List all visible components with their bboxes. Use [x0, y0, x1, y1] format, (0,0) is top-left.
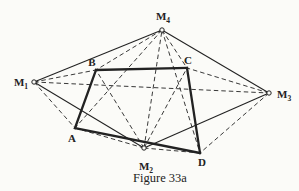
edge-dashed-M3-D: [200, 93, 269, 153]
point-marker-M3: [267, 91, 271, 95]
edge-bold-A-B: [75, 70, 96, 128]
point-label-D: D: [198, 156, 206, 168]
figure: M1M2M3M4ABCD Figure 33a: [0, 0, 299, 191]
point-label-A: A: [68, 132, 76, 144]
point-label-B: B: [88, 56, 96, 68]
point-marker-M1: [32, 80, 36, 84]
edge-dashed-M1-A: [34, 82, 75, 128]
point-label-C: C: [184, 54, 192, 66]
edge-solid-M1-M4: [34, 30, 162, 82]
edge-dashed-M4-A: [75, 30, 162, 128]
point-label-M1: M1: [14, 76, 28, 91]
edge-solid-M4-M3: [162, 30, 269, 93]
edge-dashed-M1-B: [34, 70, 96, 82]
point-marker-M4: [160, 28, 164, 32]
point-marker-M2: [142, 146, 146, 150]
point-label-M4: M4: [156, 10, 170, 25]
edge-bold-B-C: [96, 68, 187, 70]
figure-caption: Figure 33a: [133, 171, 187, 186]
figure-canvas: M1M2M3M4ABCD: [0, 0, 299, 191]
edge-dashed-M1-M3: [34, 82, 269, 93]
edge-bold-C-D: [187, 68, 200, 153]
edge-solid-M3-M2: [144, 93, 269, 148]
point-label-M3: M3: [277, 88, 291, 103]
edge-dashed-M3-C: [187, 68, 269, 93]
edge-dashed-M4-B: [96, 30, 162, 70]
